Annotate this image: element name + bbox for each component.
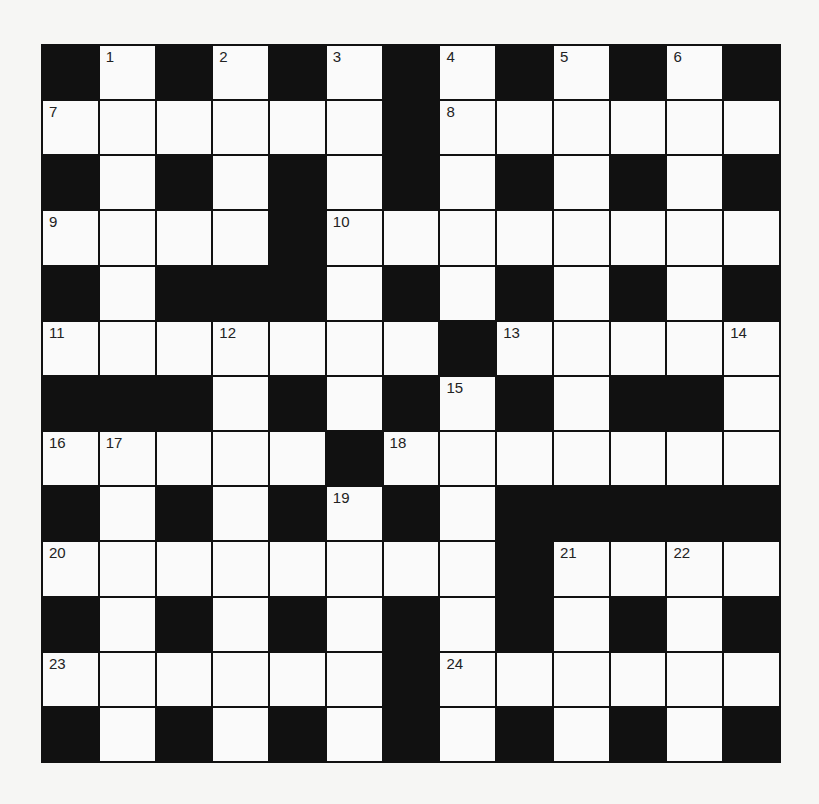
answer-cell[interactable]	[611, 542, 666, 595]
answer-cell[interactable]	[724, 211, 779, 264]
answer-cell[interactable]: 6	[667, 46, 722, 99]
answer-cell[interactable]: 2	[213, 46, 268, 99]
answer-cell[interactable]	[100, 542, 155, 595]
answer-cell[interactable]	[440, 211, 495, 264]
answer-cell[interactable]	[554, 101, 609, 154]
answer-cell[interactable]	[667, 432, 722, 485]
answer-cell[interactable]	[100, 322, 155, 375]
answer-cell[interactable]: 5	[554, 46, 609, 99]
answer-cell[interactable]	[440, 156, 495, 209]
answer-cell[interactable]	[270, 542, 325, 595]
answer-cell[interactable]	[611, 322, 666, 375]
answer-cell[interactable]	[327, 542, 382, 595]
answer-cell[interactable]: 20	[43, 542, 98, 595]
answer-cell[interactable]	[157, 322, 212, 375]
answer-cell[interactable]	[554, 156, 609, 209]
answer-cell[interactable]	[157, 101, 212, 154]
answer-cell[interactable]	[554, 432, 609, 485]
answer-cell[interactable]: 21	[554, 542, 609, 595]
answer-cell[interactable]: 11	[43, 322, 98, 375]
answer-cell[interactable]	[327, 322, 382, 375]
answer-cell[interactable]	[157, 432, 212, 485]
answer-cell[interactable]	[327, 267, 382, 320]
answer-cell[interactable]	[554, 377, 609, 430]
answer-cell[interactable]	[724, 653, 779, 706]
answer-cell[interactable]	[100, 101, 155, 154]
answer-cell[interactable]	[213, 708, 268, 761]
answer-cell[interactable]	[554, 708, 609, 761]
answer-cell[interactable]	[497, 653, 552, 706]
answer-cell[interactable]	[384, 322, 439, 375]
answer-cell[interactable]	[667, 211, 722, 264]
answer-cell[interactable]	[100, 487, 155, 540]
answer-cell[interactable]	[611, 211, 666, 264]
answer-cell[interactable]	[554, 267, 609, 320]
answer-cell[interactable]	[213, 211, 268, 264]
answer-cell[interactable]	[611, 653, 666, 706]
answer-cell[interactable]: 13	[497, 322, 552, 375]
answer-cell[interactable]	[213, 598, 268, 651]
answer-cell[interactable]: 19	[327, 487, 382, 540]
answer-cell[interactable]	[213, 542, 268, 595]
answer-cell[interactable]	[611, 432, 666, 485]
answer-cell[interactable]: 7	[43, 101, 98, 154]
answer-cell[interactable]	[270, 101, 325, 154]
answer-cell[interactable]	[157, 211, 212, 264]
answer-cell[interactable]	[327, 377, 382, 430]
answer-cell[interactable]	[384, 542, 439, 595]
answer-cell[interactable]	[213, 156, 268, 209]
answer-cell[interactable]: 10	[327, 211, 382, 264]
answer-cell[interactable]	[440, 542, 495, 595]
answer-cell[interactable]: 16	[43, 432, 98, 485]
answer-cell[interactable]	[270, 653, 325, 706]
answer-cell[interactable]: 3	[327, 46, 382, 99]
answer-cell[interactable]	[611, 101, 666, 154]
answer-cell[interactable]	[724, 377, 779, 430]
answer-cell[interactable]: 12	[213, 322, 268, 375]
answer-cell[interactable]: 22	[667, 542, 722, 595]
answer-cell[interactable]	[100, 156, 155, 209]
answer-cell[interactable]	[157, 542, 212, 595]
answer-cell[interactable]	[100, 267, 155, 320]
answer-cell[interactable]: 1	[100, 46, 155, 99]
answer-cell[interactable]	[667, 267, 722, 320]
answer-cell[interactable]: 4	[440, 46, 495, 99]
answer-cell[interactable]	[440, 487, 495, 540]
answer-cell[interactable]	[100, 653, 155, 706]
answer-cell[interactable]	[667, 101, 722, 154]
answer-cell[interactable]: 8	[440, 101, 495, 154]
answer-cell[interactable]	[213, 487, 268, 540]
answer-cell[interactable]	[440, 708, 495, 761]
answer-cell[interactable]	[667, 322, 722, 375]
answer-cell[interactable]	[157, 653, 212, 706]
answer-cell[interactable]	[327, 708, 382, 761]
answer-cell[interactable]	[327, 156, 382, 209]
answer-cell[interactable]	[554, 322, 609, 375]
answer-cell[interactable]: 23	[43, 653, 98, 706]
answer-cell[interactable]	[213, 377, 268, 430]
answer-cell[interactable]	[497, 101, 552, 154]
answer-cell[interactable]	[270, 322, 325, 375]
answer-cell[interactable]	[554, 598, 609, 651]
answer-cell[interactable]	[440, 598, 495, 651]
answer-cell[interactable]	[440, 432, 495, 485]
answer-cell[interactable]	[554, 653, 609, 706]
answer-cell[interactable]	[497, 432, 552, 485]
answer-cell[interactable]	[100, 211, 155, 264]
answer-cell[interactable]	[384, 211, 439, 264]
answer-cell[interactable]	[724, 432, 779, 485]
answer-cell[interactable]	[667, 156, 722, 209]
answer-cell[interactable]	[554, 211, 609, 264]
answer-cell[interactable]	[213, 101, 268, 154]
answer-cell[interactable]	[327, 598, 382, 651]
answer-cell[interactable]	[724, 542, 779, 595]
answer-cell[interactable]: 17	[100, 432, 155, 485]
answer-cell[interactable]	[440, 267, 495, 320]
answer-cell[interactable]	[724, 101, 779, 154]
answer-cell[interactable]	[667, 598, 722, 651]
answer-cell[interactable]: 18	[384, 432, 439, 485]
answer-cell[interactable]	[213, 653, 268, 706]
answer-cell[interactable]	[667, 708, 722, 761]
answer-cell[interactable]: 15	[440, 377, 495, 430]
answer-cell[interactable]	[667, 653, 722, 706]
